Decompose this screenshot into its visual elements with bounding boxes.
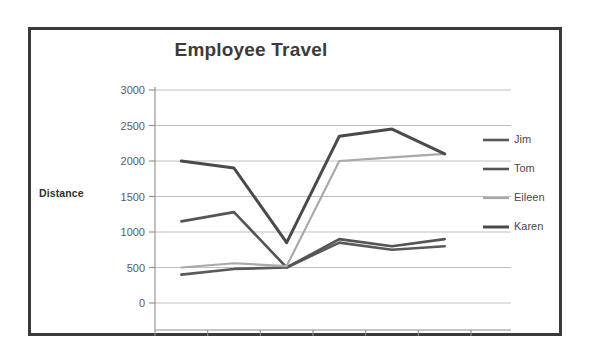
legend-label: Jim <box>514 133 531 145</box>
y-tick-label: 2000 <box>121 155 145 167</box>
y-tick-label: 1500 <box>121 191 145 203</box>
y-tick-labels: 050010001500200025003000 <box>121 84 145 309</box>
y-tick-label: 2500 <box>121 120 145 132</box>
axis-ticks <box>149 87 511 336</box>
y-tick-label: 0 <box>139 297 145 309</box>
chart-frame: Employee Travel Distance 050010001500200… <box>28 27 562 336</box>
legend-label: Eileen <box>514 191 545 203</box>
data-series-line <box>181 243 444 275</box>
legend-label: Karen <box>514 220 543 232</box>
y-tick-label: 1000 <box>121 226 145 238</box>
data-series-line <box>181 154 444 268</box>
plot-area: 050010001500200025003000 JanFebMarAprMay… <box>31 30 565 339</box>
data-series <box>181 129 444 275</box>
data-series-line <box>181 212 444 267</box>
legend-label: Tom <box>514 162 535 174</box>
y-tick-label: 500 <box>127 262 145 274</box>
chart-canvas: Employee Travel Distance 050010001500200… <box>31 30 559 333</box>
data-series-line <box>181 129 444 243</box>
chart-legend: JimTomEileenKaren <box>483 133 545 232</box>
y-tick-label: 3000 <box>121 84 145 96</box>
